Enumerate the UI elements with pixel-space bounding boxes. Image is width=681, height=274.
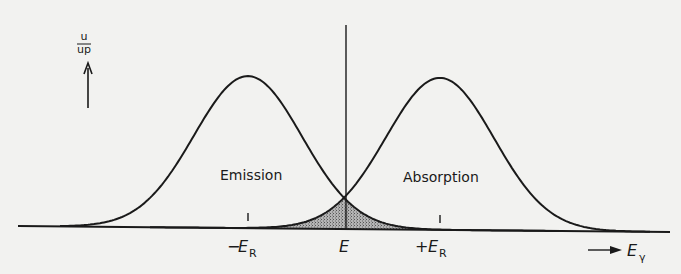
x-axis-label: E γ: [588, 241, 646, 264]
x-label-subscript: γ: [639, 251, 646, 264]
er-symbol: E: [428, 237, 439, 256]
emission-curve: [60, 76, 560, 231]
overlap-region: [250, 198, 440, 230]
tick-label-minus-er: − E R: [227, 237, 257, 260]
er-subscript: R: [439, 247, 447, 260]
emission-absorption-diagram: Emission Absorption − E R E + E R E γ dn…: [0, 0, 681, 274]
tick-label-e: E: [339, 237, 350, 256]
plus-sign: +: [415, 237, 428, 256]
emission-label: Emission: [220, 167, 282, 183]
absorption-label: Absorption: [403, 169, 479, 185]
x-label-main: E: [627, 241, 638, 260]
arrowhead-icon: [610, 246, 622, 254]
y-label-denominator: n: [80, 31, 87, 44]
er-symbol: E: [238, 237, 249, 256]
er-subscript: R: [249, 247, 257, 260]
tick-label-plus-er: + E R: [415, 237, 447, 260]
y-label-numerator: dn: [77, 44, 91, 57]
y-axis-label: dn n: [77, 31, 91, 57]
absorption-curve: [150, 78, 650, 232]
